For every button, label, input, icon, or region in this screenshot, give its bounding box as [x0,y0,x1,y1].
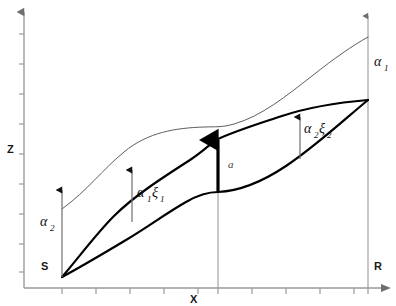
alpha-2-base: α [40,214,48,229]
x-axis-ticks [62,288,368,294]
amplitude-a-label: a [228,158,234,170]
alpha-1-xi-1-alpha: α [137,185,145,200]
alpha-1-subscript: 1 [384,63,389,73]
alpha-2-xi-2-alpha: α [304,121,312,136]
alpha-2-xi-2-label: α 2 ξ 2 [304,121,332,140]
labels-group: Z X S R α 2 α 1 α 1 ξ 1 [7,54,389,305]
alpha-1-xi-1-label: α 1 ξ 1 [137,185,165,204]
alpha-2-xi-2-xi: ξ [319,121,325,136]
guide-lines-group [218,16,368,288]
alpha-2-subscript: 2 [50,223,55,233]
annotation-arrows-group [62,117,300,277]
alpha-1-xi-1-xi-sub: 1 [160,194,165,204]
alpha-1-xi-1-xi: ξ [152,185,158,200]
alpha-1-base: α [374,54,382,69]
source-label: S [41,260,48,272]
x-axis-label: X [190,293,198,305]
alpha-1-xi-1-alpha-sub: 1 [147,194,152,204]
y-axis-ticks [19,34,24,272]
axes-group [19,12,388,294]
alpha-1-label: α 1 [374,54,389,73]
alpha-2-label: α 2 [40,214,55,233]
receiver-label: R [374,260,382,272]
y-axis-label: Z [7,143,14,155]
alpha-2-xi-2-xi-sub: 2 [327,130,332,140]
curves-group [62,37,368,277]
diagram-figure: Z X S R α 2 α 1 α 1 ξ 1 [0,0,396,306]
